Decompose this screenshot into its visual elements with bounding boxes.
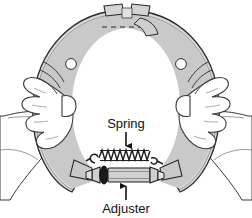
adjuster-screw [86,166,164,184]
return-spring [86,150,163,164]
spring-label: Spring [107,116,145,131]
web-hole [176,59,187,70]
adjuster-label: Adjuster [102,201,150,216]
web-hole [66,59,77,70]
figure-canvas: Spring Adjuster [0,0,252,218]
brake-shoe-figure: Spring Adjuster [0,0,252,218]
star-wheel [100,166,108,184]
